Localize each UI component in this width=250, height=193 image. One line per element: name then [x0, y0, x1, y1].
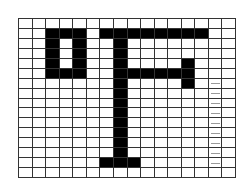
empty-cell	[181, 107, 195, 117]
empty-cell	[59, 18, 73, 28]
filled-cell	[181, 68, 195, 78]
empty-cell	[32, 98, 46, 108]
empty-cell	[140, 127, 154, 137]
empty-cell	[167, 117, 181, 127]
empty-cell	[72, 137, 86, 147]
empty-cell	[59, 58, 73, 68]
empty-cell	[59, 78, 73, 88]
empty-cell	[167, 58, 181, 68]
empty-cell	[154, 147, 168, 157]
pixel-grid	[18, 18, 236, 178]
empty-cell	[32, 117, 46, 127]
empty-cell	[72, 107, 86, 117]
empty-cell	[32, 167, 46, 177]
empty-cell	[167, 38, 181, 48]
filled-cell	[113, 157, 127, 167]
empty-cell	[99, 107, 113, 117]
empty-cell	[194, 18, 208, 28]
empty-cell	[18, 38, 32, 48]
filled-cell	[99, 157, 113, 167]
empty-cell	[208, 167, 222, 177]
empty-cell	[208, 107, 222, 117]
empty-cell	[127, 88, 141, 98]
empty-cell	[154, 58, 168, 68]
empty-cell	[208, 88, 222, 98]
empty-cell	[181, 117, 195, 127]
empty-cell	[99, 98, 113, 108]
empty-cell	[45, 157, 59, 167]
filled-cell	[181, 78, 195, 88]
empty-cell	[99, 38, 113, 48]
empty-cell	[45, 107, 59, 117]
empty-cell	[127, 98, 141, 108]
empty-cell	[127, 38, 141, 48]
empty-cell	[32, 157, 46, 167]
empty-cell	[86, 18, 100, 28]
empty-cell	[127, 147, 141, 157]
empty-cell	[140, 117, 154, 127]
empty-cell	[140, 38, 154, 48]
empty-cell	[181, 98, 195, 108]
empty-cell	[154, 18, 168, 28]
empty-cell	[154, 88, 168, 98]
empty-cell	[221, 127, 235, 137]
empty-cell	[72, 167, 86, 177]
empty-cell	[127, 48, 141, 58]
filled-cell	[113, 147, 127, 157]
empty-cell	[221, 107, 235, 117]
empty-cell	[59, 137, 73, 147]
empty-cell	[208, 117, 222, 127]
empty-cell	[59, 167, 73, 177]
empty-cell	[99, 167, 113, 177]
empty-cell	[86, 98, 100, 108]
empty-cell	[181, 157, 195, 167]
empty-cell	[18, 78, 32, 88]
empty-cell	[181, 167, 195, 177]
empty-cell	[18, 58, 32, 68]
empty-cell	[86, 78, 100, 88]
empty-cell	[194, 68, 208, 78]
empty-cell	[208, 48, 222, 58]
empty-cell	[154, 98, 168, 108]
empty-cell	[181, 88, 195, 98]
filled-cell	[113, 38, 127, 48]
empty-cell	[86, 137, 100, 147]
empty-cell	[59, 88, 73, 98]
filled-cell	[154, 28, 168, 38]
empty-cell	[99, 58, 113, 68]
empty-cell	[194, 38, 208, 48]
empty-cell	[18, 28, 32, 38]
filled-cell	[113, 78, 127, 88]
empty-cell	[18, 88, 32, 98]
empty-cell	[127, 58, 141, 68]
empty-cell	[45, 137, 59, 147]
empty-cell	[32, 18, 46, 28]
empty-cell	[86, 157, 100, 167]
empty-cell	[140, 147, 154, 157]
empty-cell	[167, 18, 181, 28]
empty-cell	[59, 98, 73, 108]
empty-cell	[140, 157, 154, 167]
filled-cell	[45, 68, 59, 78]
empty-cell	[32, 68, 46, 78]
empty-cell	[59, 117, 73, 127]
empty-cell	[45, 127, 59, 137]
empty-cell	[194, 78, 208, 88]
empty-cell	[221, 157, 235, 167]
empty-cell	[194, 117, 208, 127]
empty-cell	[154, 117, 168, 127]
empty-cell	[86, 58, 100, 68]
filled-cell	[113, 48, 127, 58]
filled-cell	[113, 68, 127, 78]
empty-cell	[154, 167, 168, 177]
empty-cell	[167, 157, 181, 167]
empty-cell	[32, 58, 46, 68]
filled-cell	[72, 58, 86, 68]
empty-cell	[86, 88, 100, 98]
filled-cell	[45, 58, 59, 68]
empty-cell	[154, 48, 168, 58]
empty-cell	[194, 58, 208, 68]
empty-cell	[127, 117, 141, 127]
filled-cell	[59, 68, 73, 78]
empty-cell	[167, 107, 181, 117]
